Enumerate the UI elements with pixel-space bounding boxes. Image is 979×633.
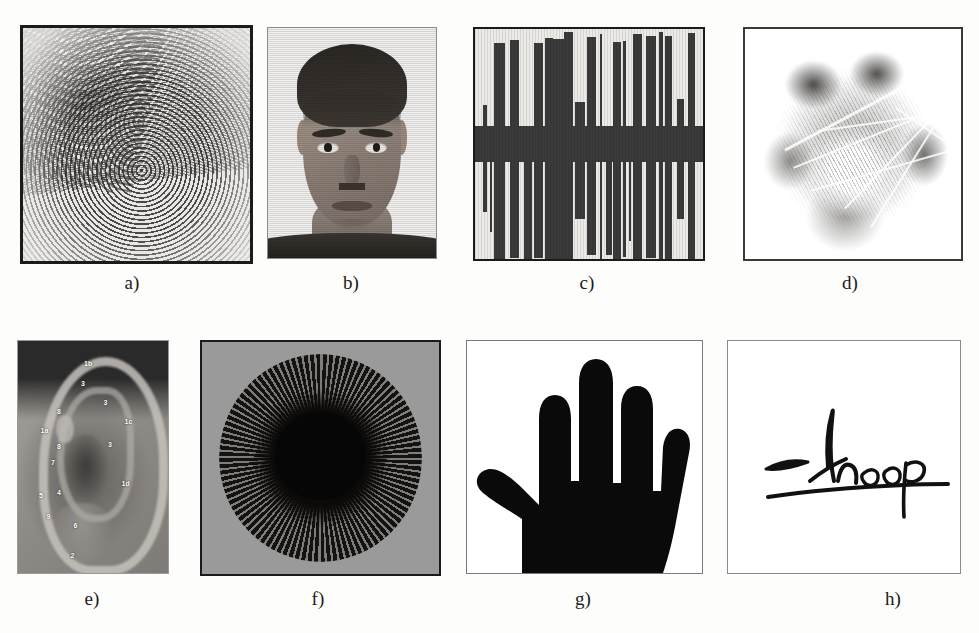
face-icon [268,28,436,258]
panel-label-c: c) [537,272,637,294]
ear-annotation-5: 5 [39,492,43,499]
panel-label-h: h) [843,588,943,610]
iris-icon [202,342,439,574]
ear-annotation-6: 6 [74,522,78,529]
waveform-icon [475,29,703,259]
hand-icon [467,341,702,573]
ear-annotation-3: 3 [108,441,112,448]
panel-ear: 1b3381c1a8371d54962 [17,340,169,574]
signature-icon [728,341,960,573]
ear-annotation-1a: 1a [41,427,49,434]
panel-label-a: a) [82,272,182,294]
panel-label-d: d) [800,272,900,294]
panel-label-b: b) [301,272,401,294]
panel-voice [473,27,705,261]
panel-fingerprint [20,25,253,264]
panel-signature [727,340,961,574]
panel-label-g: g) [533,588,633,610]
ear-annotation-2: 2 [71,552,75,559]
panel-label-f: f) [268,588,368,610]
ear-annotation-1c: 1c [125,418,133,425]
ear-annotation-4: 4 [57,489,61,496]
fingerprint-icon [23,28,250,261]
ear-annotation-3: 3 [104,399,108,406]
panel-iris [200,340,441,576]
ear-annotation-1d: 1d [122,480,130,487]
panel-face [267,27,437,259]
ear-annotation-1b: 1b [84,360,92,367]
palmprint-icon [745,29,961,259]
ear-annotation-3: 3 [81,380,85,387]
ear-annotation-8: 8 [57,443,61,450]
panel-hand [466,340,703,574]
ear-annotation-9: 9 [47,513,51,520]
palm-crease [874,259,963,261]
ear-annotation-8: 8 [57,408,61,415]
panel-palmprint [743,27,963,261]
ear-annotation-7: 7 [51,459,55,466]
panel-label-e: e) [42,588,142,610]
figure-page: a) b) c) [0,0,979,633]
ear-icon: 1b3381c1a8371d54962 [18,341,168,573]
